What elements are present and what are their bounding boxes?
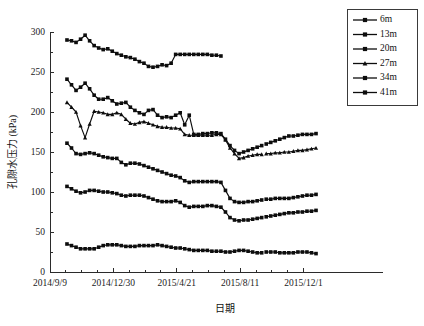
data-point-marker — [133, 57, 137, 61]
data-point-marker — [187, 53, 191, 57]
data-point-marker — [138, 60, 142, 64]
data-point-marker — [129, 161, 133, 165]
data-point-marker — [192, 205, 196, 209]
data-series-group — [65, 33, 318, 255]
data-point-marker — [151, 244, 155, 248]
data-point-marker — [183, 53, 187, 57]
data-point-marker — [169, 173, 173, 177]
legend-label: 6m — [380, 14, 393, 24]
data-point-marker — [273, 197, 277, 201]
data-point-marker — [106, 190, 110, 194]
data-point-marker — [183, 204, 187, 208]
data-point-marker — [120, 161, 124, 165]
data-point-marker — [314, 209, 318, 213]
data-point-marker — [92, 247, 96, 251]
y-tick-label: 50 — [36, 227, 46, 237]
x-tick-label: 2015/12/1 — [284, 278, 323, 288]
data-point-marker — [106, 243, 110, 247]
data-point-marker — [192, 180, 196, 184]
series-line-27m — [67, 102, 316, 158]
data-point-marker — [201, 132, 205, 136]
data-point-marker — [314, 252, 318, 256]
data-point-marker — [305, 133, 309, 137]
data-point-marker — [120, 101, 124, 105]
data-point-marker — [92, 189, 96, 193]
data-point-marker — [219, 54, 223, 58]
data-point-marker — [201, 249, 205, 253]
data-point-marker — [133, 109, 137, 113]
legend-label: 13m — [380, 29, 398, 39]
data-point-marker — [165, 200, 169, 204]
data-point-marker — [251, 200, 255, 204]
data-point-marker — [101, 97, 105, 101]
data-point-marker — [79, 191, 83, 195]
data-point-marker — [169, 245, 173, 249]
y-axis-ticks: 050100150200250300 — [31, 27, 54, 277]
data-point-marker — [206, 204, 210, 208]
data-point-marker — [196, 205, 200, 209]
legend-label: 41m — [380, 87, 398, 97]
data-point-marker — [120, 53, 124, 57]
data-point-marker — [178, 53, 182, 57]
data-point-marker — [287, 134, 291, 138]
data-point-marker — [219, 181, 223, 185]
data-point-marker — [210, 204, 214, 208]
data-point-marker — [101, 155, 105, 159]
data-point-marker — [97, 97, 101, 101]
data-point-marker — [156, 243, 160, 247]
y-tick-label: 0 — [40, 267, 45, 277]
data-point-marker — [292, 211, 296, 215]
data-point-marker — [242, 150, 246, 154]
data-point-marker — [246, 218, 250, 222]
data-point-marker — [83, 33, 87, 37]
data-point-marker — [174, 246, 178, 250]
data-point-marker — [233, 218, 237, 222]
data-point-marker — [287, 211, 291, 215]
legend-label: 27m — [380, 58, 398, 68]
series-13m — [65, 185, 318, 223]
data-point-marker — [242, 201, 246, 205]
data-point-marker — [101, 190, 105, 194]
data-point-marker — [224, 210, 228, 214]
data-point-marker — [83, 136, 87, 140]
data-point-marker — [169, 61, 173, 65]
x-axis-ticks: 2014/9/92014/12/302015/4/212015/8/112015… — [33, 268, 323, 288]
data-point-marker — [106, 47, 110, 51]
data-point-marker — [133, 245, 137, 249]
data-point-marker — [174, 53, 178, 57]
data-point-marker — [106, 96, 110, 100]
data-point-marker — [129, 245, 133, 249]
data-point-marker — [138, 162, 142, 166]
legend-marker-glyph — [363, 32, 367, 36]
data-point-marker — [92, 152, 96, 156]
data-point-marker — [110, 49, 114, 53]
data-point-marker — [65, 100, 69, 104]
data-point-marker — [305, 193, 309, 197]
data-point-marker — [246, 200, 250, 204]
data-point-marker — [287, 197, 291, 201]
data-point-marker — [165, 64, 169, 68]
legend-marker-glyph — [363, 90, 367, 94]
data-point-marker — [78, 124, 82, 128]
data-point-marker — [97, 46, 101, 50]
data-point-marker — [251, 250, 255, 254]
data-point-marker — [83, 190, 87, 194]
data-point-marker — [255, 145, 259, 149]
data-point-marker — [233, 200, 237, 204]
data-point-marker — [138, 193, 142, 197]
data-point-marker — [124, 163, 128, 167]
data-point-marker — [242, 218, 246, 222]
data-point-marker — [124, 245, 128, 249]
data-point-marker — [178, 111, 182, 115]
data-point-marker — [88, 39, 92, 43]
data-point-marker — [160, 116, 164, 120]
data-point-marker — [255, 199, 259, 203]
data-point-marker — [97, 245, 101, 249]
data-point-marker — [283, 197, 287, 201]
data-point-marker — [156, 65, 160, 69]
data-point-marker — [156, 199, 160, 203]
data-point-marker — [83, 152, 87, 156]
data-point-marker — [215, 180, 219, 184]
data-point-marker — [174, 113, 178, 117]
data-point-marker — [110, 157, 114, 161]
